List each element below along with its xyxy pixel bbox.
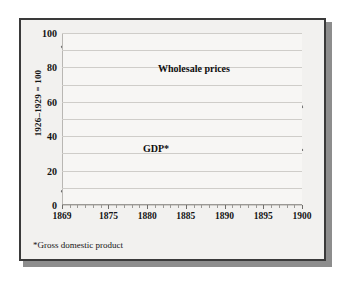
- series-label-wholesale-prices: Wholesale prices: [158, 63, 230, 74]
- x-tick-minor-1874: [101, 205, 102, 208]
- chart-figure: 1926–1929 = 100 020406080100 18691875188…: [0, 0, 347, 283]
- x-tick-minor-1892: [240, 205, 241, 208]
- x-tick-label-1869: 1869: [53, 211, 72, 221]
- x-tick-major-1895: [263, 205, 264, 209]
- series-label-gdp: GDP*: [143, 143, 169, 154]
- gridline-y-10: [62, 188, 302, 189]
- y-tick-label-0: 0: [52, 200, 57, 211]
- x-tick-minor-1888: [209, 205, 210, 208]
- gridline-y-100: [62, 33, 302, 34]
- x-tick-minor-1893: [248, 205, 249, 208]
- x-tick-minor-1883: [170, 205, 171, 208]
- figure-frame: 1926–1929 = 100 020406080100 18691875188…: [19, 18, 326, 261]
- x-tick-minor-1876: [116, 205, 117, 208]
- gridline-y-50: [62, 119, 302, 120]
- x-tick-minor-1886: [194, 205, 195, 208]
- x-tick-minor-1891: [232, 205, 233, 208]
- x-tick-minor-1872: [85, 205, 86, 208]
- x-tick-label-1880: 1880: [138, 211, 157, 221]
- x-tick-minor-1898: [287, 205, 288, 208]
- x-tick-minor-1881: [155, 205, 156, 208]
- x-tick-label-1875: 1875: [99, 211, 118, 221]
- x-tick-major-1890: [225, 205, 226, 209]
- gridline-y-40: [62, 136, 302, 137]
- x-tick-major-1869: [62, 205, 63, 209]
- x-tick-minor-1877: [124, 205, 125, 208]
- figure-inner: 1926–1929 = 100 020406080100 18691875188…: [21, 20, 324, 259]
- x-tick-major-1900: [302, 205, 303, 209]
- x-tick-minor-1871: [77, 205, 78, 208]
- x-tick-label-1895: 1895: [254, 211, 273, 221]
- x-tick-minor-1884: [178, 205, 179, 208]
- gridline-y-0: [62, 205, 302, 206]
- y-axis-title: 1926–1929 = 100: [33, 38, 43, 168]
- y-tick-label-40: 40: [47, 131, 57, 142]
- gridline-y-30: [62, 153, 302, 154]
- x-tick-minor-1879: [139, 205, 140, 208]
- x-tick-major-1880: [147, 205, 148, 209]
- x-tick-major-1875: [108, 205, 109, 209]
- x-tick-minor-1897: [279, 205, 280, 208]
- y-tick-label-60: 60: [47, 96, 57, 107]
- x-tick-minor-1873: [93, 205, 94, 208]
- x-tick-minor-1878: [132, 205, 133, 208]
- y-tick-label-80: 80: [47, 62, 57, 73]
- gridline-y-20: [62, 171, 302, 172]
- plot-area: 020406080100 186918751880188518901895190…: [62, 33, 302, 205]
- gridline-y-90: [62, 50, 302, 51]
- x-tick-major-1885: [186, 205, 187, 209]
- gridline-y-70: [62, 85, 302, 86]
- x-tick-minor-1882: [163, 205, 164, 208]
- gridline-y-60: [62, 102, 302, 103]
- x-tick-minor-1870: [70, 205, 71, 208]
- x-tick-label-1885: 1885: [176, 211, 195, 221]
- x-tick-minor-1894: [256, 205, 257, 208]
- x-tick-minor-1889: [217, 205, 218, 208]
- x-tick-minor-1899: [294, 205, 295, 208]
- y-tick-label-20: 20: [47, 165, 57, 176]
- footnote: *Gross domestic product: [33, 240, 123, 250]
- x-tick-label-1900: 1900: [293, 211, 312, 221]
- y-tick-label-100: 100: [42, 28, 57, 39]
- x-tick-minor-1896: [271, 205, 272, 208]
- x-tick-minor-1887: [201, 205, 202, 208]
- x-tick-label-1890: 1890: [215, 211, 234, 221]
